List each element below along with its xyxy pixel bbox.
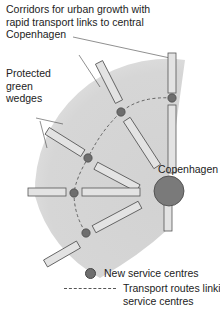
dashed-line-icon bbox=[64, 288, 116, 289]
corridors-label-line-1: Corridors for urban growth with bbox=[6, 3, 150, 16]
legend-routes-line-1: Transport routes linking bbox=[123, 282, 220, 295]
corridor-west-inner bbox=[82, 188, 140, 196]
wedges-label-line-2: green bbox=[6, 80, 51, 93]
service-centre-sw bbox=[82, 229, 90, 237]
legend-transport-routes: Transport routes linking service centres bbox=[64, 282, 220, 307]
copenhagen-label: Copenhagen bbox=[158, 163, 218, 176]
legend-routes-line-2: service centres bbox=[123, 295, 220, 308]
service-centre-icon bbox=[85, 268, 96, 279]
corridor-south bbox=[164, 203, 172, 231]
service-centre-west bbox=[70, 189, 78, 197]
copenhagen-centre bbox=[154, 176, 184, 206]
green-wedges-label: Protected green wedges bbox=[6, 67, 51, 105]
wedges-label-line-1: Protected bbox=[6, 67, 51, 80]
corridors-label: Corridors for urban growth with rapid tr… bbox=[6, 3, 150, 41]
corridor-west-outer bbox=[28, 188, 66, 196]
legend-service-centres-text: New service centres bbox=[104, 267, 199, 280]
corridor-north-outer bbox=[168, 53, 176, 93]
service-centre-nnw bbox=[117, 108, 125, 116]
legend-service-centres: New service centres bbox=[85, 267, 199, 280]
service-centre-north bbox=[168, 94, 176, 102]
corridors-label-line-3: Copenhagen bbox=[6, 28, 150, 41]
wedges-label-line-3: wedges bbox=[6, 92, 51, 105]
corridors-label-line-2: rapid transport links to central bbox=[6, 16, 150, 29]
service-centre-nw bbox=[84, 154, 92, 162]
